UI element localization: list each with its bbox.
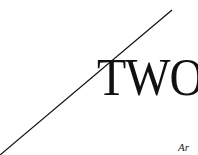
artwork-canvas: TWO Ar bbox=[0, 0, 198, 155]
caption-fragment: Ar bbox=[178, 141, 189, 153]
headline-text: TWO bbox=[97, 52, 198, 104]
